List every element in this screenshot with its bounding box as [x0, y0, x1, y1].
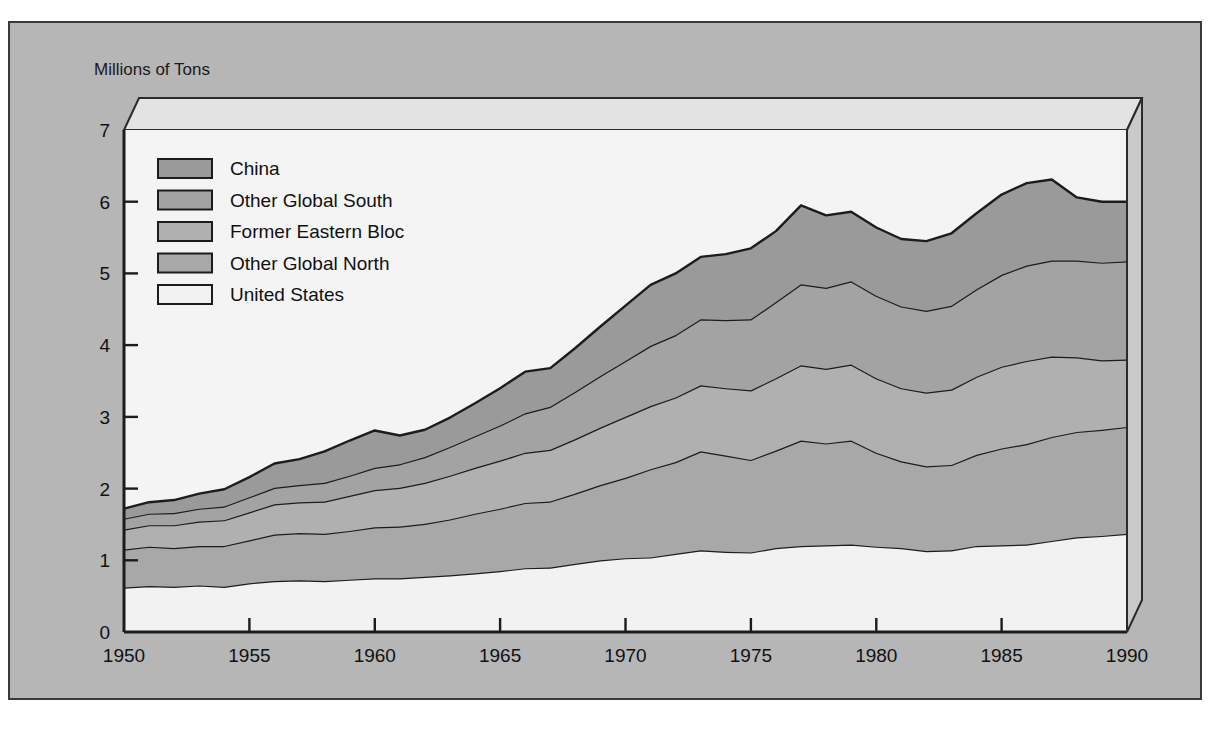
y-tick-label: 4	[99, 335, 110, 356]
x-tick-label: 1980	[855, 645, 897, 666]
y-tick-label: 3	[99, 407, 110, 428]
x-tick-label: 1990	[1106, 645, 1148, 666]
x-tick-label: 1970	[604, 645, 646, 666]
x-tick-label: 1975	[730, 645, 772, 666]
y-tick-label: 5	[99, 263, 110, 284]
x-tick-label: 1985	[980, 645, 1022, 666]
x-tick-label: 1965	[479, 645, 521, 666]
legend-label: Other Global North	[230, 253, 389, 274]
y-tick-label: 2	[99, 479, 110, 500]
chart-3d-top-face	[124, 98, 1142, 130]
x-tick-label: 1955	[228, 645, 270, 666]
stacked-area-chart: 01234567 1950195519601965197019751980198…	[10, 23, 1200, 698]
legend-swatch	[158, 191, 212, 210]
x-tick-label: 1960	[354, 645, 396, 666]
legend-swatch	[158, 222, 212, 241]
chart-3d-right-face	[1127, 98, 1142, 632]
y-tick-label: 1	[99, 550, 110, 571]
legend-label: Former Eastern Bloc	[230, 221, 404, 242]
legend-swatch	[158, 254, 212, 273]
legend-label: United States	[230, 284, 344, 305]
legend-swatch	[158, 159, 212, 178]
y-axis-title: Millions of Tons	[94, 60, 210, 79]
legend-label: China	[230, 158, 280, 179]
y-tick-label: 0	[99, 622, 110, 643]
figure-plate: 01234567 1950195519601965197019751980198…	[8, 21, 1202, 700]
y-tick-label: 7	[99, 120, 110, 141]
legend-label: Other Global South	[230, 190, 393, 211]
chart-page: 01234567 1950195519601965197019751980198…	[0, 0, 1213, 737]
y-tick-label: 6	[99, 192, 110, 213]
x-tick-label: 1950	[103, 645, 145, 666]
legend-swatch	[158, 285, 212, 304]
